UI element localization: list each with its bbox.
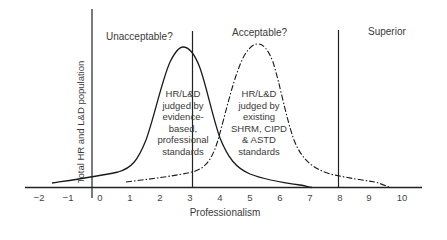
annotation-line: judged by — [219, 100, 299, 112]
x-tick-label: −1 — [63, 192, 74, 203]
annotation-line: judged by — [143, 100, 223, 112]
x-tick-label: 5 — [247, 192, 252, 203]
annotation-line: based, — [143, 123, 223, 135]
annotation-line: standards — [143, 146, 223, 158]
annotation-line: professional — [143, 134, 223, 146]
x-tick-label: 6 — [277, 192, 282, 203]
annotation-line: evidence- — [143, 111, 223, 123]
x-tick-label: 3 — [187, 192, 192, 203]
x-tick-label: 8 — [337, 192, 342, 203]
x-tick-label: 7 — [307, 192, 312, 203]
annotation-line: SHRM, CIPD — [219, 123, 299, 135]
x-tick-label: −2 — [34, 192, 45, 203]
annotation-line: HR/L&D — [143, 88, 223, 100]
y-axis-label: Total HR and L&D population — [75, 61, 86, 184]
annotation-line: existing — [219, 111, 299, 123]
x-tick-label: 4 — [217, 192, 222, 203]
annotation-line: HR/L&D — [219, 88, 299, 100]
region-label-superior: Superior — [368, 26, 406, 37]
region-label-acceptable: Acceptable? — [232, 27, 287, 38]
annotation-line: & ASTD — [219, 134, 299, 146]
dashed-curve-annotation: HR/L&D judged by existing SHRM, CIPD & A… — [219, 88, 299, 157]
x-tick-label: 0 — [97, 192, 102, 203]
x-axis-label: Professionalism — [190, 207, 261, 218]
solid-curve-annotation: HR/L&D judged by evidence- based, profes… — [143, 88, 223, 157]
annotation-line: standards — [219, 146, 299, 158]
x-tick-label: 1 — [127, 192, 132, 203]
region-label-unacceptable: Unacceptable? — [106, 31, 173, 42]
x-tick-label: 10 — [397, 192, 408, 203]
x-tick-label: 9 — [366, 192, 371, 203]
x-tick-label: 2 — [157, 192, 162, 203]
